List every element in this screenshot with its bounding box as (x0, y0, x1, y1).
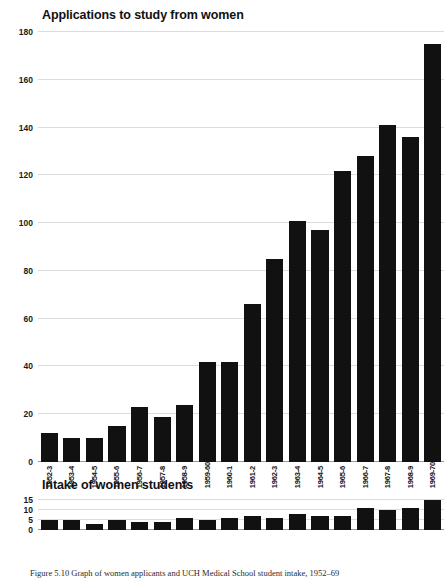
intake-plot-area: 051015 (38, 500, 444, 530)
bar-cell (83, 500, 106, 530)
bar (244, 516, 261, 530)
bar (244, 304, 261, 462)
bar-cell (128, 500, 151, 530)
bar (199, 520, 216, 530)
bar-cell (264, 500, 287, 530)
bar (357, 156, 374, 462)
bar-cell (106, 32, 129, 462)
bar (176, 405, 193, 462)
y-axis-tick-label: 60 (24, 314, 33, 324)
bar-cell (331, 500, 354, 530)
bar-cell (309, 32, 332, 462)
y-axis-tick-label: 120 (19, 170, 33, 180)
bar-cell (151, 500, 174, 530)
applications-plot-area: 020406080100120140160180 (38, 32, 444, 462)
bar-cell (422, 500, 445, 530)
bar (334, 516, 351, 530)
bar (357, 508, 374, 530)
y-axis-tick-label: 20 (24, 409, 33, 419)
bar-cell (376, 500, 399, 530)
bar-cell (38, 32, 61, 462)
bar (108, 520, 125, 530)
applications-bars (38, 32, 444, 462)
bar-cell (173, 32, 196, 462)
bar-cell (241, 32, 264, 462)
intake-chart: Intake of women students 051015 (0, 470, 448, 577)
intake-chart-title: Intake of women students (42, 478, 193, 492)
bar-cell (354, 32, 377, 462)
bar (266, 518, 283, 530)
y-axis-tick-label: 160 (19, 75, 33, 85)
bar-cell (422, 32, 445, 462)
y-axis-tick-label: 10 (24, 505, 33, 515)
bar (199, 362, 216, 462)
bar (154, 522, 171, 530)
bar-cell (61, 32, 84, 462)
bar-cell (196, 32, 219, 462)
bar (379, 125, 396, 462)
bar (41, 433, 58, 462)
bar-cell (173, 500, 196, 530)
bar-cell (286, 500, 309, 530)
bar-cell (38, 500, 61, 530)
bar (334, 171, 351, 462)
bar-cell (128, 32, 151, 462)
bar (311, 516, 328, 530)
bar (154, 417, 171, 462)
bar-cell (354, 500, 377, 530)
y-axis-tick-label: 100 (19, 218, 33, 228)
applications-chart: Applications to study from women 0204060… (0, 0, 448, 470)
y-axis-tick-label: 140 (19, 123, 33, 133)
bar (402, 508, 419, 530)
bar-cell (286, 32, 309, 462)
y-axis-tick-label: 15 (24, 495, 33, 505)
bar (63, 438, 80, 462)
bar-cell (264, 32, 287, 462)
bar-cell (399, 32, 422, 462)
bar (289, 221, 306, 462)
bar-cell (151, 32, 174, 462)
bar (221, 362, 238, 462)
applications-chart-title: Applications to study from women (42, 8, 244, 22)
bar (221, 518, 238, 530)
bar (379, 510, 396, 530)
bar (86, 438, 103, 462)
y-axis-tick-label: 40 (24, 361, 33, 371)
bar-cell (61, 500, 84, 530)
y-axis-tick-label: 180 (19, 27, 33, 37)
bar (402, 137, 419, 462)
bar-cell (309, 500, 332, 530)
bar (86, 524, 103, 530)
bar-cell (196, 500, 219, 530)
bar-cell (331, 32, 354, 462)
bar (289, 514, 306, 530)
bar (311, 230, 328, 462)
y-axis-tick-label: 0 (28, 457, 33, 467)
bar-cell (219, 500, 242, 530)
bar (41, 520, 58, 530)
bar-cell (376, 32, 399, 462)
bar (131, 522, 148, 530)
y-axis-tick-label: 5 (28, 515, 33, 525)
bar-cell (106, 500, 129, 530)
bar (131, 407, 148, 462)
bar (266, 259, 283, 462)
bar (63, 520, 80, 530)
bar (424, 44, 441, 462)
bar-cell (241, 500, 264, 530)
figure-caption: Figure 5.10 Graph of women applicants an… (30, 568, 440, 578)
intake-bars (38, 500, 444, 530)
bar-cell (399, 500, 422, 530)
bar-cell (219, 32, 242, 462)
bar-cell (83, 32, 106, 462)
y-axis-tick-label: 0 (28, 525, 33, 535)
bar (108, 426, 125, 462)
y-axis-tick-label: 80 (24, 266, 33, 276)
bar (176, 518, 193, 530)
bar (424, 500, 441, 530)
